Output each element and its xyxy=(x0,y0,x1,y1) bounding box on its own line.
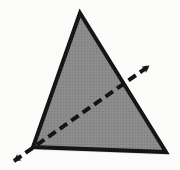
figure-canvas xyxy=(0,0,180,170)
geometry-figure xyxy=(0,0,180,170)
